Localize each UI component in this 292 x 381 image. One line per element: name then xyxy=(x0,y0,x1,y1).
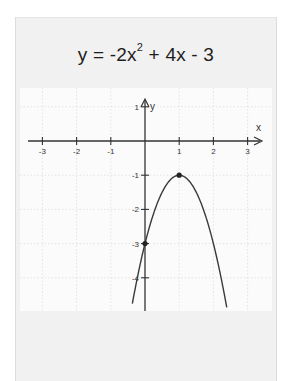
y-tick-label: -2 xyxy=(132,205,140,214)
x-axis-label: x xyxy=(256,122,261,133)
x-tick-label: -1 xyxy=(107,147,115,156)
x-tick-label: 1 xyxy=(177,147,182,156)
y-tick-label: -3 xyxy=(132,240,140,249)
x-tick-label: 2 xyxy=(211,147,216,156)
plot-area: xy-3-2-11231-1-2-3-4 xyxy=(20,88,272,311)
vertex-point xyxy=(177,173,182,178)
title-exponent: 2 xyxy=(137,41,143,53)
chart-title: y = -2x2 + 4x - 3 xyxy=(0,44,292,66)
y-axis-label: y xyxy=(150,101,155,112)
x-tick-label: -3 xyxy=(39,147,47,156)
x-tick-label: -2 xyxy=(73,147,81,156)
title-prefix: y = -2x xyxy=(78,44,137,65)
parabola-chart: xy-3-2-11231-1-2-3-4 xyxy=(20,88,272,311)
title-suffix: + 4x - 3 xyxy=(143,44,214,65)
y-tick-label: 1 xyxy=(135,103,140,112)
y-intercept-point xyxy=(142,241,147,246)
x-tick-label: 3 xyxy=(245,147,250,156)
y-tick-label: -1 xyxy=(132,171,140,180)
